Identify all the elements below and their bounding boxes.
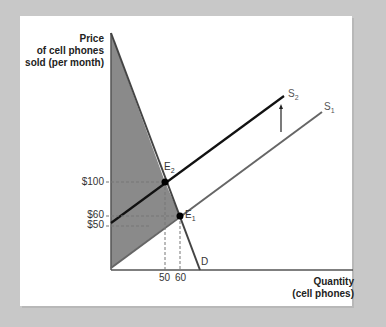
- x-tick-60: 60: [175, 272, 186, 283]
- y-label-line3: sold (per month): [20, 57, 104, 69]
- x-label-line1: Quantity: [270, 276, 354, 288]
- s1-label: S1: [324, 101, 335, 114]
- y-tick-50: $50: [60, 219, 104, 230]
- s2-label: S2: [288, 88, 299, 101]
- y-label-line2: of cell phones: [20, 45, 104, 57]
- x-tick-50: 50: [159, 272, 170, 283]
- x-axis-label: Quantity (cell phones): [270, 276, 354, 300]
- equilibrium-e2: [162, 179, 169, 186]
- shaded-area: [111, 33, 180, 268]
- arrow-head-icon: [279, 104, 283, 109]
- y-label-line1: Price: [20, 33, 104, 45]
- x-label-line2: (cell phones): [270, 288, 354, 300]
- d-label: D: [201, 256, 208, 267]
- e1-label: E1: [185, 209, 196, 222]
- equilibrium-e1: [177, 213, 184, 220]
- y-axis-label: Price of cell phones sold (per month): [20, 33, 104, 69]
- e2-label: E2: [164, 161, 175, 174]
- y-tick-100: $100: [60, 176, 104, 187]
